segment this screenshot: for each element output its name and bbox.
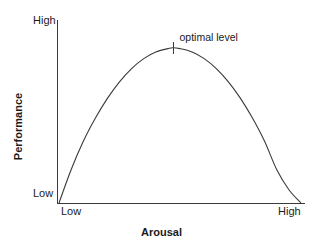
- y-axis-title: Performance: [13, 72, 24, 182]
- y-axis-low-label: Low: [33, 188, 53, 199]
- chart-figure: High Low Low High Arousal Performance op…: [0, 0, 323, 246]
- optimal-level-annotation: optimal level: [180, 32, 238, 43]
- y-axis-high-label: High: [33, 15, 53, 26]
- x-axis-high-label: High: [278, 206, 301, 217]
- x-axis-low-label: Low: [61, 206, 81, 217]
- plot-area: [0, 0, 323, 246]
- x-axis-title: Arousal: [0, 227, 323, 238]
- performance-curve: [59, 48, 301, 203]
